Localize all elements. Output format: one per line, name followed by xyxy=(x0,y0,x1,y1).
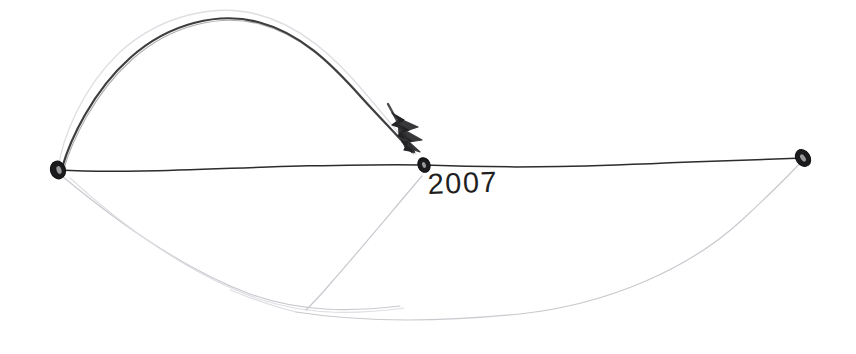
arc-dark-overdraw-path xyxy=(64,20,414,170)
node-right-endpoint[interactable] xyxy=(792,147,814,170)
lower-sweep-tail-path xyxy=(230,290,296,312)
sketch-canvas: 2007 xyxy=(0,0,856,354)
valley-descent-path xyxy=(306,176,422,310)
lower-left-curve-a-path xyxy=(62,176,400,310)
lower-sweep-path xyxy=(296,162,801,320)
baseline-left-segment xyxy=(58,165,424,172)
arc-ghost-path xyxy=(58,10,416,170)
year-label-2007: 2007 xyxy=(427,166,499,200)
sketch-svg: 2007 xyxy=(0,0,856,354)
arc-dark-path xyxy=(62,18,412,168)
node-left-endpoint[interactable] xyxy=(48,159,68,181)
arrowhead-icon xyxy=(388,104,422,152)
main-arc-group xyxy=(62,18,414,170)
